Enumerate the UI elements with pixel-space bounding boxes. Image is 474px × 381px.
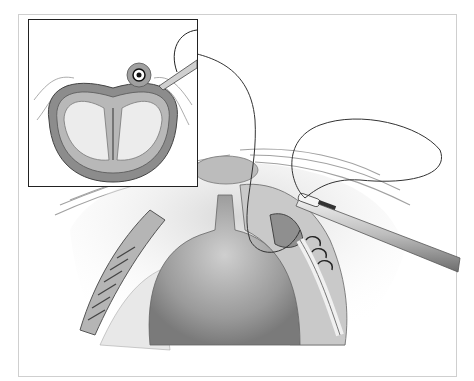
aorta-top — [194, 156, 258, 184]
inset-cross-section — [28, 19, 198, 187]
cross-section-illustration — [29, 20, 197, 186]
inset-instrument — [159, 60, 197, 90]
